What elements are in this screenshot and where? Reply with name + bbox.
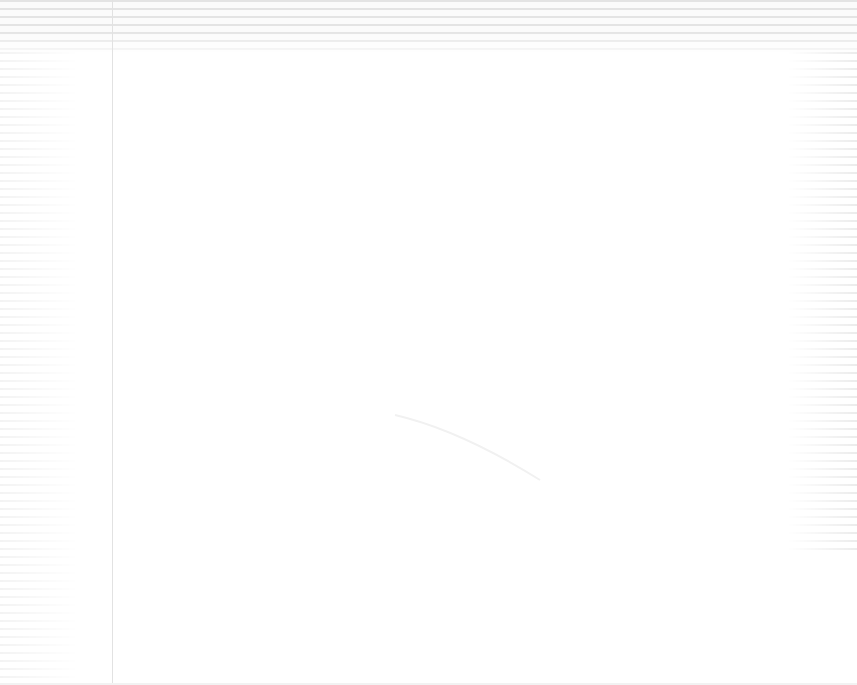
toolbar-area <box>0 0 857 52</box>
faint-curve-graphic <box>390 410 550 490</box>
main-content <box>113 52 857 685</box>
sidebar <box>0 52 112 685</box>
